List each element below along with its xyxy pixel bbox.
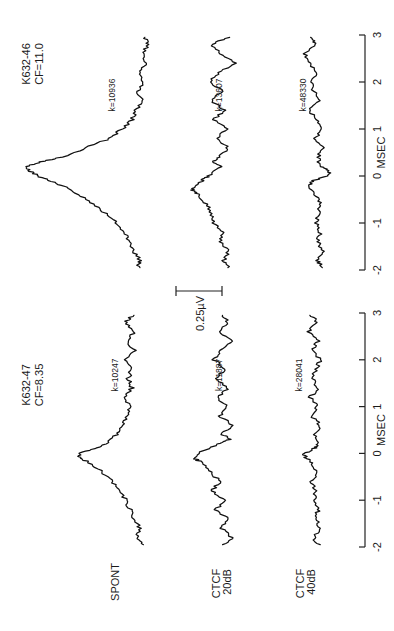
trace-k632-46-ctcf-20db [191,37,237,267]
time-axis-tick-label-k632-46-4: 2 [371,79,383,85]
time-axis-tick-label-k632-47-0: -2 [371,542,383,552]
row-label-ctcf40: CTCF 40dB [294,566,317,598]
trace-k632-47-ctcf-20db [194,315,233,544]
cf-label-bottom: CF=8.35 [33,364,45,407]
panels-layer: -2-10123MSEC-2-10123MSEC [26,32,387,552]
time-axis-tick-label-k632-47-2: 0 [371,450,383,456]
row-label-ctcf40-line2: 40dB [305,569,317,595]
time-axis-title-k632-47: MSEC [375,414,387,446]
time-axis-tick-label-k632-46-1: -1 [371,218,383,228]
time-axis-tick-label-k632-47-1: -1 [371,495,383,505]
k-label-top-ctcf40: k=48330 [298,78,308,111]
trace-k632-47-spont [78,315,144,544]
unit-label-top: K632-46 [20,43,32,85]
row-label-ctcf20-line2: 20dB [221,569,233,595]
time-axis-tick-label-k632-46-2: 0 [371,173,383,179]
time-axis-title-k632-46: MSEC [375,137,387,169]
k-label-top-spont: k=10936 [107,78,117,111]
time-axis-tick-label-k632-47-3: 1 [371,404,383,410]
scale-bar: 0.25µV [176,286,222,331]
scale-bar-label: 0.25µV [194,295,206,331]
k-label-top-ctcf20: k=13607 [214,78,224,111]
time-axis-tick-label-k632-46-0: -2 [371,265,383,275]
figure-canvas: -2-10123MSEC-2-10123MSEC K632-46 CF=11.0… [0,0,394,631]
time-axis-tick-label-k632-47-4: 2 [371,357,383,363]
row-label-ctcf20: CTCF 20dB [210,566,233,598]
k-label-bottom-ctcf20: k=11887 [214,359,224,391]
k-label-bottom-spont: k=10247 [110,358,120,391]
k-label-bottom-ctcf40: k=28041 [294,358,304,391]
row-label-spont-line1: SPONT [109,563,121,601]
unit-label-bottom: K632-47 [20,364,32,406]
trace-k632-46-ctcf-40db [303,37,330,267]
trace-k632-47-ctcf-40db [303,315,322,544]
time-axis-tick-label-k632-47-5: 3 [371,310,383,316]
row-label-spont: SPONT [109,563,121,601]
time-axis-tick-label-k632-46-5: 3 [371,32,383,38]
cf-label-top: CF=11.0 [33,43,45,85]
time-axis-tick-label-k632-46-3: 1 [371,126,383,132]
